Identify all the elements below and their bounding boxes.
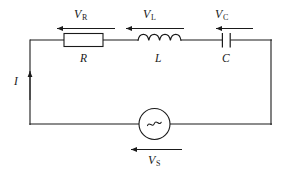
ac-source-symbol bbox=[139, 109, 170, 140]
current-label-i: I bbox=[14, 76, 18, 88]
component-label-r: R bbox=[80, 53, 87, 65]
component-label-l: L bbox=[155, 53, 162, 65]
voltage-label-vs: VS bbox=[148, 154, 160, 166]
capacitor-symbol bbox=[222, 33, 230, 48]
voltage-label-vr: VR bbox=[74, 8, 87, 20]
inductor-symbol bbox=[138, 34, 181, 40]
circuit-diagram-figure: VR VL VC VS R L C I bbox=[0, 0, 292, 173]
voltage-label-vc: VC bbox=[215, 8, 228, 20]
circuit-schematic bbox=[0, 0, 292, 173]
voltage-label-vl: VL bbox=[143, 8, 155, 20]
component-label-c: C bbox=[222, 53, 230, 65]
resistor-symbol bbox=[64, 34, 103, 47]
